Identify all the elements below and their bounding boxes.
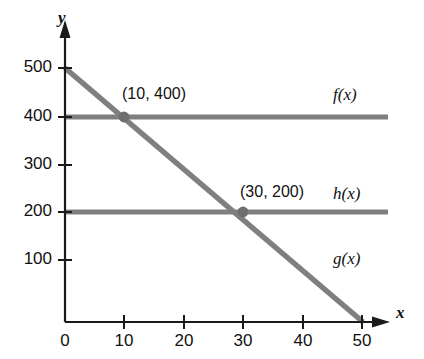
y-tick-label-100: 100: [6, 249, 52, 269]
x-tick-label-10: 10: [104, 331, 144, 351]
line-g-of-x: [65, 68, 363, 322]
x-tick-label-30: 30: [223, 331, 263, 351]
function-label-g: g(x): [333, 249, 360, 269]
y-tick-label-400: 400: [6, 106, 52, 126]
x-tick-label-40: 40: [283, 331, 323, 351]
graph-figure: y x 500 400 300 200 100 0 10 20 30 40 50…: [0, 0, 424, 359]
marker-point-10-400: [119, 112, 130, 123]
function-label-f: f(x): [333, 85, 357, 105]
x-tick-label-0: 0: [45, 331, 85, 351]
y-tick-label-300: 300: [6, 154, 52, 174]
marker-point-30-200: [238, 207, 249, 218]
annotation-point-30-200: (30, 200): [240, 183, 304, 201]
x-tick-label-20: 20: [164, 331, 204, 351]
coordinate-plane-svg: [0, 0, 424, 359]
y-tick-label-500: 500: [6, 57, 52, 77]
x-axis-label: x: [396, 303, 405, 323]
x-axis-arrowhead: [372, 317, 390, 328]
y-tick-label-200: 200: [6, 201, 52, 221]
function-label-h: h(x): [333, 184, 360, 204]
annotation-point-10-400: (10, 400): [122, 85, 186, 103]
x-tick-label-50: 50: [342, 331, 382, 351]
y-axis-label: y: [58, 8, 66, 28]
